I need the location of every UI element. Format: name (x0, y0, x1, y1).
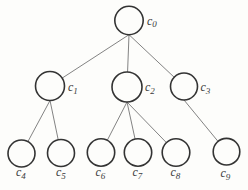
tree-diagram: c0c1c2c3c4c5c6c7c8c9 (0, 0, 248, 190)
node-c3 (171, 73, 198, 100)
node-c4 (8, 140, 35, 167)
node-c2 (112, 72, 142, 102)
node-c8 (162, 139, 190, 167)
node-c9 (213, 138, 240, 165)
node-c5 (48, 140, 75, 167)
tree-svg: c0c1c2c3c4c5c6c7c8c9 (0, 0, 248, 190)
node-c1 (36, 72, 65, 101)
node-c0 (115, 6, 143, 34)
node-c6 (87, 139, 114, 166)
node-c7 (124, 139, 151, 166)
